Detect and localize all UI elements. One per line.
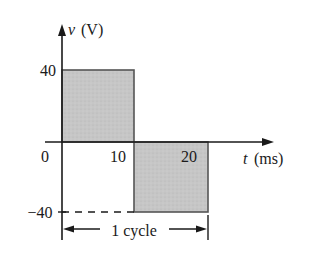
square-wave-diagram: 1 cycle 40 −40 0 10 20 t (ms) v (V): [0, 0, 319, 265]
x-tick-0: 0: [41, 148, 49, 165]
positive-pulse: [62, 70, 134, 142]
waveform-svg: 1 cycle 40 −40 0 10 20 t (ms) v (V): [0, 0, 319, 265]
y-tick-neg40: −40: [27, 204, 52, 221]
x-tick-10: 10: [110, 148, 126, 165]
y-axis-unit: (V): [81, 21, 103, 39]
cycle-arrow-right-icon: [196, 226, 207, 233]
cycle-arrow-left-icon: [63, 226, 74, 233]
x-axis-variable: t: [243, 150, 248, 167]
y-tick-40: 40: [40, 62, 56, 79]
x-axis-unit: (ms): [254, 150, 283, 168]
x-axis-arrow-icon: [262, 138, 274, 146]
cycle-label: 1 cycle: [111, 222, 157, 240]
y-axis-variable: v: [68, 21, 76, 38]
x-tick-20: 20: [181, 148, 197, 165]
y-axis-arrow-icon: [58, 24, 66, 36]
